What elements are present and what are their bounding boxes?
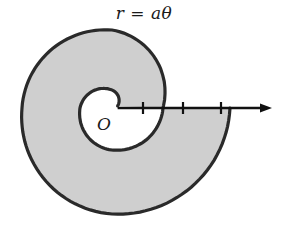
origin-label: O	[97, 114, 111, 134]
spiral-figure	[0, 0, 288, 228]
arrowhead-icon	[260, 104, 272, 113]
